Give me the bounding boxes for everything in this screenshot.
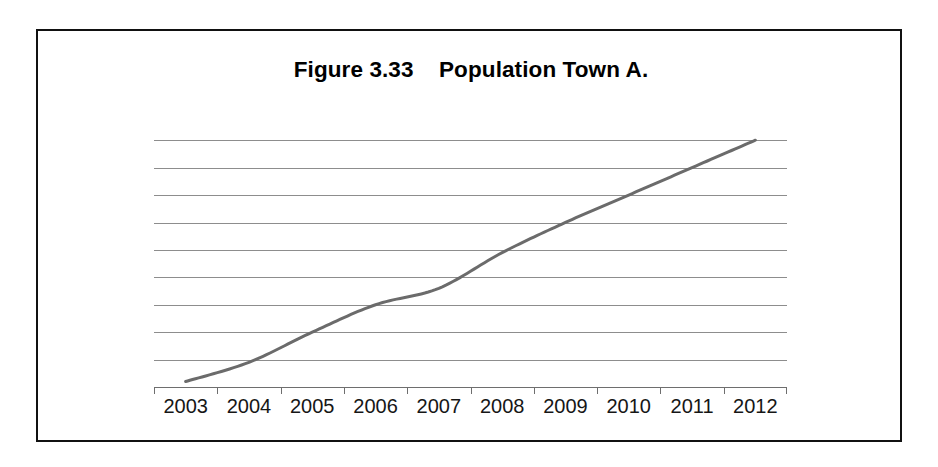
x-axis-label: 2007 <box>407 395 470 418</box>
x-axis-label: 2011 <box>660 395 723 418</box>
x-axis-label: 2003 <box>154 395 217 418</box>
x-axis-label: 2009 <box>534 395 597 418</box>
x-axis-labels: 2003200420052006200720082009201020112012 <box>154 395 787 423</box>
x-axis-tick <box>660 387 661 394</box>
x-axis-tick <box>724 387 725 394</box>
x-axis-tick <box>281 387 282 394</box>
x-axis-label: 2004 <box>217 395 280 418</box>
figure-title: Figure 3.33 Population Town A. <box>38 57 904 83</box>
x-axis-label: 2012 <box>724 395 787 418</box>
population-line-path <box>186 140 756 381</box>
figure-root: Figure 3.33 Population Town A. 200320042… <box>0 0 938 467</box>
x-axis-label: 2006 <box>344 395 407 418</box>
x-axis-tick <box>471 387 472 394</box>
x-axis-tick <box>407 387 408 394</box>
x-axis-label: 2005 <box>281 395 344 418</box>
chart-plot-area: 2003200420052006200720082009201020112012 <box>154 121 787 387</box>
x-axis-tick <box>597 387 598 394</box>
x-axis-label: 2010 <box>597 395 660 418</box>
x-axis-ticks <box>154 387 787 394</box>
x-axis-tick <box>534 387 535 394</box>
x-axis-tick <box>344 387 345 394</box>
figure-frame: Figure 3.33 Population Town A. 200320042… <box>36 29 902 442</box>
x-axis-label: 2008 <box>471 395 534 418</box>
x-axis-tick <box>786 387 787 394</box>
chart-series-line <box>154 121 787 387</box>
x-axis-tick <box>217 387 218 394</box>
x-axis-tick <box>154 387 155 394</box>
